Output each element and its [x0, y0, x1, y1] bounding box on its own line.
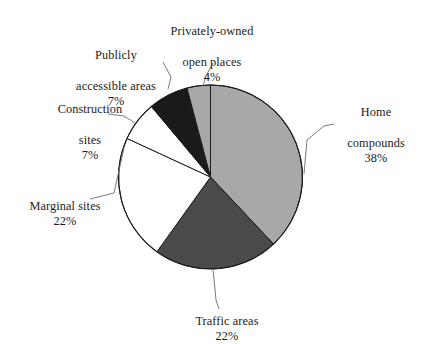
pie-label-text-home-compounds-line1: Home	[361, 105, 391, 119]
pie-label-traffic-areas: Traffic areas 22%	[168, 298, 286, 344]
pie-label-text-publicly-accessible-areas-line1: Publicly	[95, 48, 137, 62]
pie-label-construction-sites: Construction sites 7%	[30, 86, 150, 180]
pie-label-text-construction-sites-line2: sites	[79, 133, 101, 147]
pie-label-home-compounds: Home compounds 38%	[330, 89, 422, 183]
pie-chart-figure: Privately-owned open places 4% Publicly …	[0, 0, 425, 344]
pie-label-text-home-compounds-line2: compounds	[347, 136, 405, 150]
pie-label-text-marginal-sites-line1: Marginal sites	[29, 199, 100, 213]
pie-label-percent-home-compounds: 38%	[330, 151, 422, 167]
pie-label-percent-construction-sites: 7%	[30, 148, 150, 164]
pie-label-text-traffic-areas-line1: Traffic areas	[195, 314, 258, 328]
pie-label-percent-traffic-areas: 22%	[168, 329, 286, 344]
pie-label-marginal-sites: Marginal sites 22%	[6, 183, 124, 245]
pie-label-text-privately-owned-open-places-line1: Privately-owned	[171, 24, 254, 38]
pie-label-percent-marginal-sites: 22%	[6, 214, 124, 230]
pie-label-text-construction-sites-line1: Construction	[58, 102, 123, 116]
pie-label-text-privately-owned-open-places-line2: open places	[183, 55, 242, 69]
